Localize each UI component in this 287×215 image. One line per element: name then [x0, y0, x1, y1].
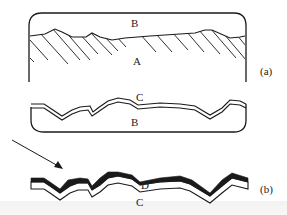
- label-d: D: [141, 180, 149, 191]
- label-b-top: B: [131, 18, 138, 29]
- panel-a-label: (a): [260, 66, 272, 77]
- panel-a-lower-replica: [31, 98, 246, 132]
- label-b-middle: B: [131, 117, 138, 128]
- arrow-icon: [12, 140, 63, 169]
- label-c-middle: C: [136, 92, 143, 103]
- label-c-bottom: C: [136, 197, 143, 208]
- panel-b-label: (b): [260, 184, 273, 195]
- label-a: A: [133, 56, 141, 67]
